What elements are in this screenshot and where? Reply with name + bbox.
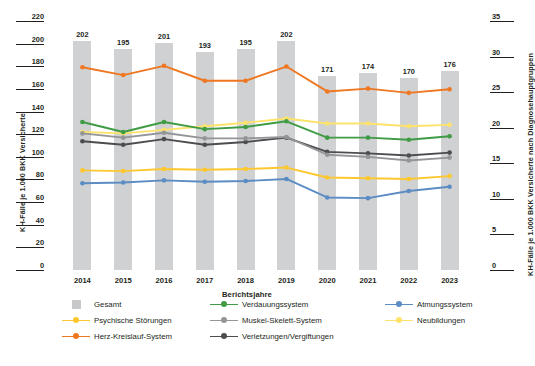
bar bbox=[237, 49, 255, 270]
y-tick-label-right: 5 bbox=[492, 225, 516, 234]
y-axis-label-right: KH-Fälle je 1.000 BKK Versicherte nach D… bbox=[526, 45, 535, 285]
x-tick-label: 2019 bbox=[266, 276, 306, 285]
bar-value-label: 202 bbox=[270, 30, 302, 39]
y-tick-label-left: 40 bbox=[16, 216, 44, 225]
x-tick-label: 2023 bbox=[430, 276, 470, 285]
line-path bbox=[82, 121, 449, 139]
y-tick-mark-right bbox=[490, 234, 514, 235]
y-tick-label-right: 20 bbox=[492, 119, 516, 128]
legend-line-icon bbox=[62, 332, 90, 341]
y-tick-mark-left bbox=[16, 270, 44, 271]
legend-label: Herz-Kreislauf-System bbox=[94, 332, 172, 341]
line-series bbox=[80, 130, 452, 162]
legend-line-icon bbox=[210, 316, 238, 325]
y-tick-mark-left bbox=[16, 66, 44, 67]
legend-line-icon bbox=[210, 332, 238, 341]
y-tick-mark-left bbox=[16, 112, 44, 113]
y-tick-label-left: 220 bbox=[16, 12, 44, 21]
y-tick-mark-right bbox=[490, 270, 514, 271]
bar bbox=[73, 41, 91, 270]
bar-value-label: 201 bbox=[148, 32, 180, 41]
y-tick-mark-right bbox=[490, 21, 514, 22]
line-path bbox=[82, 118, 449, 133]
line-path bbox=[82, 138, 449, 156]
y-tick-mark-right bbox=[490, 199, 514, 200]
line-path bbox=[82, 179, 449, 198]
legend-item[interactable]: Psychische Störungen bbox=[62, 316, 210, 325]
y-tick-label-right: 35 bbox=[492, 12, 516, 21]
y-tick-label-right: 15 bbox=[492, 154, 516, 163]
y-tick-label-right: 30 bbox=[492, 48, 516, 57]
bar-value-label: 171 bbox=[311, 65, 343, 74]
y-tick-label-left: 140 bbox=[16, 103, 44, 112]
legend-line-icon bbox=[385, 300, 413, 309]
x-tick-label: 2018 bbox=[226, 276, 266, 285]
y-tick-mark-right bbox=[490, 57, 514, 58]
legend-item[interactable]: Verletzungen/Vergiftungen bbox=[210, 332, 385, 341]
line-series bbox=[80, 177, 452, 201]
legend-line-icon bbox=[210, 300, 238, 309]
legend-label: Gesamt bbox=[94, 300, 121, 309]
line-series bbox=[80, 165, 452, 181]
line-path bbox=[82, 133, 449, 161]
line-series bbox=[80, 116, 452, 136]
bar bbox=[441, 71, 459, 270]
y-tick-mark-left bbox=[16, 134, 44, 135]
y-tick-label-left: 80 bbox=[16, 170, 44, 179]
y-tick-label-right: 10 bbox=[492, 190, 516, 199]
chart-legend: GesamtVerdauungssystemAtmungssystemPsych… bbox=[62, 296, 482, 344]
bar bbox=[114, 49, 132, 270]
y-tick-mark-left bbox=[16, 202, 44, 203]
legend-label: Neubildungen bbox=[417, 316, 465, 325]
legend-item[interactable]: Atmungssystem bbox=[385, 300, 495, 309]
legend-item[interactable]: Muskel-Skelett-System bbox=[210, 316, 385, 325]
y-tick-mark-left bbox=[16, 157, 44, 158]
bar bbox=[196, 52, 214, 270]
y-tick-label-right: 0 bbox=[492, 261, 516, 270]
y-tick-mark-left bbox=[16, 225, 44, 226]
y-tick-label-left: 100 bbox=[16, 148, 44, 157]
bar bbox=[318, 76, 336, 270]
legend-label: Psychische Störungen bbox=[94, 316, 172, 325]
legend-item[interactable]: Herz-Kreislauf-System bbox=[62, 332, 210, 341]
legend-line-icon bbox=[385, 316, 413, 325]
y-tick-label-left: 0 bbox=[16, 261, 44, 270]
legend-line-icon bbox=[62, 316, 90, 325]
legend-item[interactable]: Gesamt bbox=[62, 300, 210, 309]
y-tick-mark-left bbox=[16, 21, 44, 22]
y-tick-label-left: 120 bbox=[16, 125, 44, 134]
y-tick-mark-left bbox=[16, 89, 44, 90]
bar-value-label: 174 bbox=[352, 62, 384, 71]
y-tick-mark-right bbox=[490, 163, 514, 164]
y-tick-mark-left bbox=[16, 179, 44, 180]
legend-item[interactable]: Verdauungssystem bbox=[210, 300, 385, 309]
line-path bbox=[82, 168, 449, 179]
legend-label: Atmungssystem bbox=[417, 300, 472, 309]
y-tick-label-left: 180 bbox=[16, 57, 44, 66]
bar bbox=[359, 73, 377, 270]
line-series bbox=[80, 135, 452, 157]
y-tick-label-right: 25 bbox=[492, 83, 516, 92]
bar bbox=[400, 78, 418, 270]
bar-value-label: 195 bbox=[230, 38, 262, 47]
bar bbox=[155, 43, 173, 270]
y-tick-label-left: 20 bbox=[16, 238, 44, 247]
chart-container: KH-Fälle je 1.000 BKK Versicherte KH-Fäl… bbox=[0, 0, 535, 366]
bar-value-label: 195 bbox=[107, 38, 139, 47]
x-tick-label: 2020 bbox=[307, 276, 347, 285]
x-tick-label: 2015 bbox=[103, 276, 143, 285]
y-tick-label-left: 60 bbox=[16, 193, 44, 202]
legend-box-icon bbox=[62, 300, 90, 309]
x-tick-label: 2017 bbox=[185, 276, 225, 285]
x-tick-label: 2014 bbox=[62, 276, 102, 285]
legend-item[interactable]: Neubildungen bbox=[385, 316, 495, 325]
y-tick-mark-left bbox=[16, 247, 44, 248]
y-tick-label-left: 160 bbox=[16, 80, 44, 89]
legend-label: Verletzungen/Vergiftungen bbox=[242, 332, 333, 341]
bar-value-label: 202 bbox=[66, 30, 98, 39]
x-tick-label: 2021 bbox=[348, 276, 388, 285]
x-tick-label: 2022 bbox=[389, 276, 429, 285]
y-tick-label-left: 200 bbox=[16, 35, 44, 44]
y-tick-mark-right bbox=[490, 128, 514, 129]
bar-value-label: 170 bbox=[393, 67, 425, 76]
